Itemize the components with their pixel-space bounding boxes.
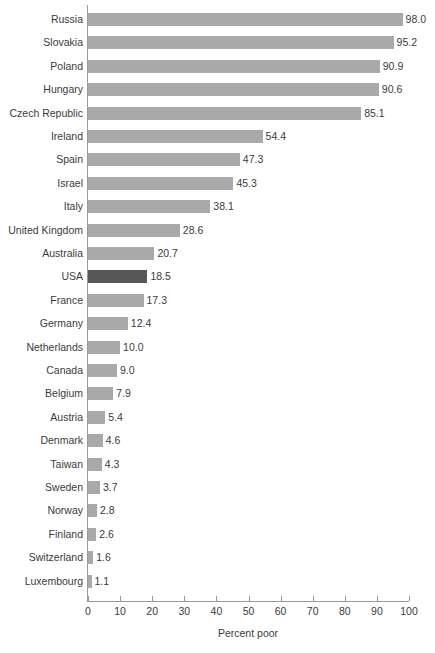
category-label: Norway <box>47 504 83 517</box>
bar-row: United Kingdom28.6 <box>0 220 435 242</box>
bar <box>88 36 394 49</box>
bar-value-label: 7.9 <box>116 387 131 400</box>
bar-value-label: 2.6 <box>99 528 114 541</box>
bar-row: Czech Republic85.1 <box>0 103 435 125</box>
bar <box>88 317 128 330</box>
bar-row: Switzerland1.6 <box>0 547 435 569</box>
x-axis-tick-label: 80 <box>339 605 351 617</box>
bar <box>88 551 93 564</box>
bar <box>88 504 97 517</box>
category-label: Czech Republic <box>9 107 83 120</box>
bar-row: Netherlands10.0 <box>0 337 435 359</box>
bar-value-label: 5.4 <box>108 411 123 424</box>
bar-row: Poland90.9 <box>0 56 435 78</box>
x-axis-tick <box>152 596 153 601</box>
bar <box>88 83 379 96</box>
x-axis-tick-label: 40 <box>211 605 223 617</box>
category-label: Canada <box>46 364 83 377</box>
category-label: Belgium <box>45 387 83 400</box>
bar-row: Slovakia95.2 <box>0 32 435 54</box>
bar-value-label: 2.8 <box>100 504 115 517</box>
bar-row: Italy38.1 <box>0 196 435 218</box>
x-axis-tick-label: 30 <box>178 605 190 617</box>
bar-row: Taiwan4.3 <box>0 454 435 476</box>
bar-row: Spain47.3 <box>0 149 435 171</box>
x-axis-tick <box>377 596 378 601</box>
bar-row: Austria5.4 <box>0 407 435 429</box>
bar-row: Sweden3.7 <box>0 477 435 499</box>
bar-value-label: 90.9 <box>383 60 403 73</box>
bar <box>88 387 113 400</box>
category-label: Austria <box>50 411 83 424</box>
category-label: France <box>50 294 83 307</box>
category-label: Italy <box>64 200 83 213</box>
bar <box>88 528 96 541</box>
bar-value-label: 95.2 <box>397 36 417 49</box>
bar-row: Belgium7.9 <box>0 383 435 405</box>
category-label: Ireland <box>51 130 83 143</box>
x-axis-tick-label: 50 <box>243 605 255 617</box>
bar <box>88 341 120 354</box>
bar-row: Hungary90.6 <box>0 79 435 101</box>
bar-value-label: 12.4 <box>131 317 151 330</box>
category-label: USA <box>61 270 83 283</box>
x-axis-tick-label: 0 <box>85 605 91 617</box>
bar-value-label: 9.0 <box>120 364 135 377</box>
bar <box>88 575 92 588</box>
category-label: Spain <box>56 153 83 166</box>
bar <box>88 270 147 283</box>
bar <box>88 458 102 471</box>
bar-value-label: 54.4 <box>266 130 286 143</box>
category-label: Russia <box>51 13 83 26</box>
category-label: Denmark <box>40 434 83 447</box>
bar <box>88 200 210 213</box>
x-axis-tick <box>313 596 314 601</box>
bar-value-label: 38.1 <box>213 200 233 213</box>
category-label: United Kingdom <box>8 224 83 237</box>
category-label: Netherlands <box>26 341 83 354</box>
x-axis-tick <box>184 596 185 601</box>
bar-row: Israel45.3 <box>0 173 435 195</box>
bar-row: Norway2.8 <box>0 500 435 522</box>
x-axis-tick <box>249 596 250 601</box>
bar-row: Canada9.0 <box>0 360 435 382</box>
x-axis-line <box>87 601 409 602</box>
bar-chart: 0102030405060708090100 Russia98.0Slovaki… <box>0 0 435 653</box>
x-axis-tick <box>88 596 89 601</box>
bar-value-label: 47.3 <box>243 153 263 166</box>
bar-row: Finland2.6 <box>0 524 435 546</box>
category-label: Australia <box>42 247 83 260</box>
bar-value-label: 4.3 <box>105 458 120 471</box>
bar-value-label: 17.3 <box>147 294 167 307</box>
bar <box>88 13 403 26</box>
bar-value-label: 18.5 <box>150 270 170 283</box>
bar-value-label: 20.7 <box>157 247 177 260</box>
bar <box>88 294 144 307</box>
bar-row: Denmark4.6 <box>0 430 435 452</box>
x-axis-tick <box>345 596 346 601</box>
bar-row: Luxembourg1.1 <box>0 571 435 593</box>
bar <box>88 224 180 237</box>
bar-row: Russia98.0 <box>0 9 435 31</box>
bar-value-label: 90.6 <box>382 83 402 96</box>
bar-value-label: 10.0 <box>123 341 143 354</box>
category-label: Luxembourg <box>25 575 83 588</box>
bar-value-label: 4.6 <box>106 434 121 447</box>
x-axis-tick <box>409 596 410 601</box>
bar-row: Germany12.4 <box>0 313 435 335</box>
category-label: Slovakia <box>43 36 83 49</box>
bar-value-label: 1.1 <box>95 575 110 588</box>
bar <box>88 247 154 260</box>
bar-value-label: 85.1 <box>364 107 384 120</box>
bar <box>88 107 361 120</box>
x-axis-tick-label: 10 <box>114 605 126 617</box>
category-label: Israel <box>57 177 83 190</box>
category-label: Germany <box>40 317 83 330</box>
x-axis-title: Percent poor <box>218 627 278 639</box>
x-axis-tick-label: 70 <box>307 605 319 617</box>
bar <box>88 364 117 377</box>
bar-value-label: 3.7 <box>103 481 118 494</box>
category-label: Finland <box>49 528 83 541</box>
bar <box>88 130 263 143</box>
x-axis-tick <box>216 596 217 601</box>
